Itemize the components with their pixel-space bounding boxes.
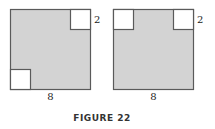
right-side-label: 8 (150, 91, 156, 102)
left-cutout-top-right (71, 10, 91, 30)
left-side-label: 8 (47, 91, 53, 102)
right-cutout-top-left (114, 10, 134, 30)
right-panel: 2 8 (114, 10, 204, 103)
figure-caption: FIGURE 22 (73, 113, 130, 123)
left-corner-label: 2 (94, 14, 100, 25)
right-cutout-top-right (174, 10, 194, 30)
left-panel: 2 8 (11, 10, 101, 103)
right-corner-label: 2 (197, 14, 203, 25)
left-cutout-bottom-left (11, 70, 31, 90)
figure-diagram: 2 8 2 8 FIGURE 22 (0, 0, 215, 129)
